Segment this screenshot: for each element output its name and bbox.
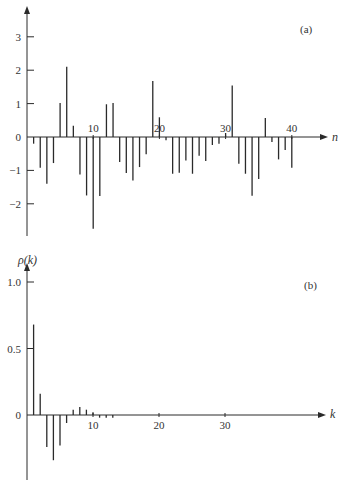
y-axis-arrowhead (24, 6, 30, 14)
panel-b-y-axis-label: ρ(k) (17, 253, 37, 267)
x-tick-label: 10 (88, 122, 100, 134)
x-axis-arrowhead (318, 412, 326, 418)
x-tick-label: 40 (286, 122, 298, 134)
panel-a-stem-plot: −2−1012310203040(a)n (9, 6, 338, 236)
panel-a-label: (a) (300, 23, 313, 36)
x-tick-label: 10 (88, 419, 100, 431)
y-tick-label: 0.5 (7, 343, 21, 355)
x-axis-arrowhead (320, 134, 328, 140)
panel-b-stem-plot: 00.51.0102030(b)kρ(k) (7, 253, 336, 480)
y-tick-label: 0 (16, 131, 22, 143)
y-tick-label: −2 (9, 198, 21, 210)
y-tick-label: 2 (16, 64, 22, 76)
y-tick-label: 1 (16, 98, 22, 110)
x-tick-label: 30 (220, 122, 232, 134)
panel-b-label: (b) (304, 279, 317, 292)
figure: −2−1012310203040(a)n 00.51.0102030(b)kρ(… (0, 0, 345, 491)
y-tick-label: 1.0 (7, 276, 21, 288)
x-tick-label: 30 (220, 419, 232, 431)
panel-a-x-axis-label: n (332, 130, 338, 144)
y-tick-label: 0 (16, 409, 22, 421)
panel-b-x-axis-label: k (330, 407, 336, 421)
y-tick-label: −1 (9, 164, 21, 176)
x-tick-label: 20 (154, 419, 166, 431)
y-tick-label: 3 (16, 31, 22, 43)
